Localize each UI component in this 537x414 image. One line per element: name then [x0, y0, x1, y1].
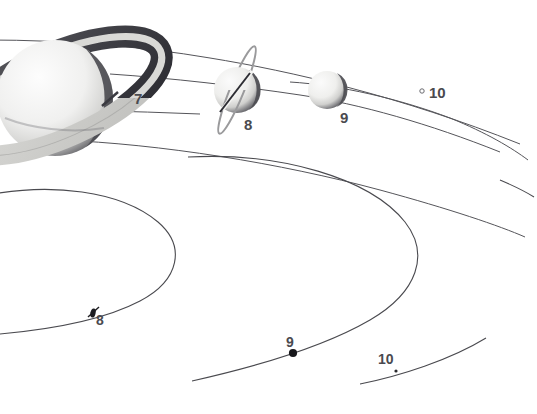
orbit-path-8 — [0, 189, 175, 335]
planet-label-8: 8 — [244, 117, 252, 132]
pluto-body — [420, 89, 424, 93]
orbit-line-outer-upper — [60, 140, 525, 237]
orbit-path-9 — [188, 156, 418, 381]
orbit-label-10: 10 — [378, 352, 394, 366]
orbit-label-8: 8 — [96, 313, 104, 327]
planet-saturn — [0, 12, 177, 180]
diagram-svg — [0, 0, 537, 414]
orbit-marker-10-glyph — [394, 369, 397, 372]
planet-neptune — [308, 71, 348, 109]
orbit-label-9: 9 — [286, 335, 294, 349]
planet-label-7: 7 — [134, 91, 142, 106]
orbit-marker-9-glyph — [289, 349, 297, 357]
orbit-paths — [0, 156, 534, 384]
planet-label-10: 10 — [429, 85, 446, 100]
diagram-canvas: 7 8 9 10 8 9 10 — [0, 0, 537, 414]
orbit-path-10-upper — [500, 180, 534, 197]
planet-uranus — [213, 44, 261, 136]
planet-label-9: 9 — [340, 110, 348, 125]
orbit-markers — [88, 307, 398, 373]
